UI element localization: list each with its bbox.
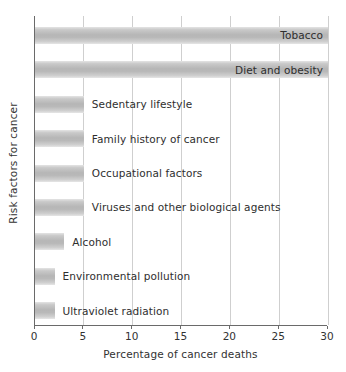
x-tick-label-15: 15 [174,330,187,342]
bar-row: Diet and obesity [35,61,327,78]
bar-row: Environmental pollution [35,268,327,285]
x-tick-mark-5 [82,326,83,329]
x-tick-label-10: 10 [125,330,138,342]
bar-label: Diet and obesity [235,64,328,76]
x-tick-mark-20 [229,326,230,329]
bar-chart-figure: Risk factors for cancer TobaccoDiet and … [0,0,346,372]
bar[interactable] [35,130,84,147]
bar-label: Ultraviolet radiation [55,305,170,317]
x-tick-label-5: 5 [79,330,86,342]
bar-label: Alcohol [64,236,111,248]
bar-row: Family history of cancer [35,130,327,147]
bar-row: Tobacco [35,27,327,44]
plot-area: TobaccoDiet and obesitySedentary lifesty… [34,16,327,326]
bar-label: Sedentary lifestyle [84,98,192,110]
y-axis-title-text: Risk factors for cancer [7,102,19,223]
bar[interactable] [35,302,55,319]
bars-group: TobaccoDiet and obesitySedentary lifesty… [35,16,327,325]
bar-row: Occupational factors [35,165,327,182]
bar-label: Occupational factors [84,167,203,179]
bar-label: Family history of cancer [84,133,220,145]
bar-row: Viruses and other biological agents [35,199,327,216]
x-tick-label-0: 0 [31,330,38,342]
y-axis-title: Risk factors for cancer [0,0,26,326]
bar-label: Viruses and other biological agents [84,201,281,213]
bar[interactable] [35,96,84,113]
x-axis-ticks: 051015202530 [34,326,327,342]
bar-row: Ultraviolet radiation [35,302,327,319]
bar-row: Alcohol [35,233,327,250]
bar[interactable] [35,199,84,216]
bar[interactable] [35,268,55,285]
x-tick-label-30: 30 [320,330,333,342]
x-tick-mark-30 [327,326,328,329]
x-axis-title: Percentage of cancer deaths [34,348,327,360]
bar[interactable]: Diet and obesity [35,61,328,78]
bar-row: Sedentary lifestyle [35,96,327,113]
x-tick-label-20: 20 [223,330,236,342]
bar-label: Environmental pollution [55,270,191,282]
x-tick-mark-10 [131,326,132,329]
x-tick-mark-25 [278,326,279,329]
bar-label: Tobacco [280,29,328,41]
x-tick-label-25: 25 [271,330,284,342]
bar[interactable] [35,165,84,182]
bar[interactable]: Tobacco [35,27,328,44]
x-tick-mark-15 [180,326,181,329]
bar[interactable] [35,233,64,250]
x-tick-mark-0 [34,326,35,329]
